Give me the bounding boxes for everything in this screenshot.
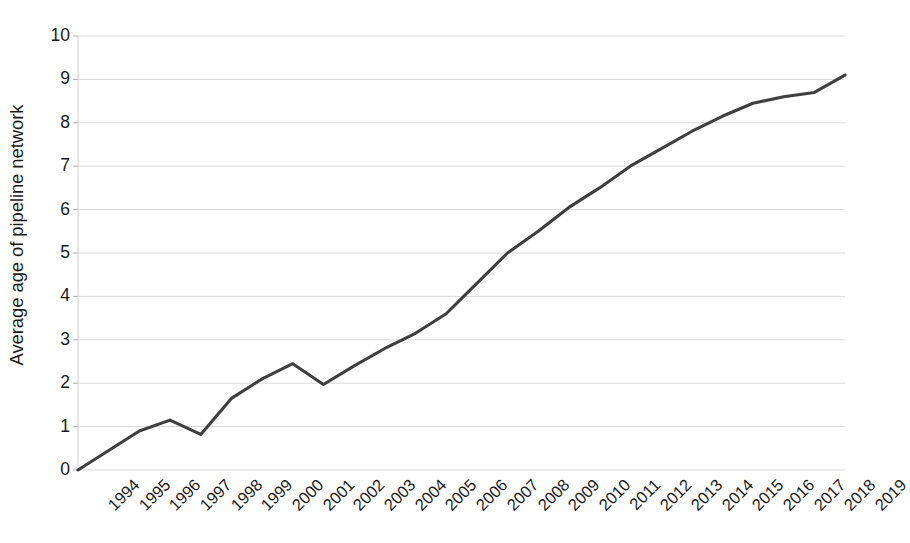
y-tick-label: 9 [60,71,70,89]
x-tick-label: 1999 [258,476,296,514]
x-tick-label: 2018 [841,476,879,514]
x-tick-label: 2003 [381,476,419,514]
x-tick-label: 2015 [749,476,787,514]
plot-area [78,36,845,470]
series-line-average-age [78,75,845,470]
y-tick-label: 4 [60,288,70,306]
y-tick-label: 1 [60,418,70,436]
y-tick-label: 5 [60,244,70,262]
x-tick-label: 2001 [320,476,358,514]
data-line-series [78,36,845,470]
x-tick-label: 1996 [166,476,204,514]
x-tick-label: 2019 [872,476,910,514]
y-tick-label: 6 [60,201,70,219]
x-tick-label: 1995 [135,476,173,514]
y-tick-label: 8 [60,114,70,132]
y-axis-title: Average age of pipeline network [0,0,34,470]
x-tick-label: 2009 [565,476,603,514]
y-tick-label: 3 [60,331,70,349]
x-tick-label: 2008 [534,476,572,514]
x-tick-label: 1997 [197,476,235,514]
x-tick-label: 2000 [289,476,327,514]
x-tick-label: 2002 [350,476,388,514]
x-tick-label: 2016 [780,476,818,514]
x-tick-label: 2007 [504,476,542,514]
x-tick-label: 2004 [412,476,450,514]
x-tick-label: 1998 [227,476,265,514]
x-tick-label: 2012 [657,476,695,514]
x-tick-label: 2017 [810,476,848,514]
x-axis-tick-labels: 1994199519961997199819992000200120022003… [78,470,845,543]
x-tick-label: 2005 [442,476,480,514]
x-tick-label: 2013 [688,476,726,514]
y-axis-tick-labels: 012345678910 [36,0,70,543]
y-tick-label: 0 [60,461,70,479]
y-tick-label: 2 [60,374,70,392]
x-tick-label: 2014 [718,476,756,514]
x-tick-label: 2006 [473,476,511,514]
x-tick-label: 2010 [596,476,634,514]
x-tick-label: 2011 [626,476,663,513]
x-tick-label: 1994 [105,476,143,514]
y-tick-label: 10 [51,27,70,45]
y-tick-label: 7 [60,157,70,175]
